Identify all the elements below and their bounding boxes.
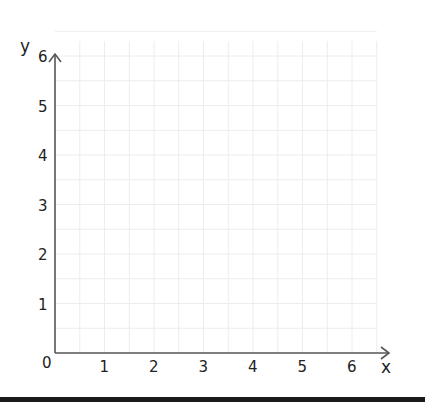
y-tick-label: 2 [38, 246, 48, 264]
y-tick-labels: 123456 [38, 48, 48, 314]
bottom-bar [0, 397, 425, 402]
coordinate-plane: 0123456 123456 x y [0, 0, 425, 397]
x-tick-label: 6 [347, 358, 357, 376]
x-axis-title: x [381, 357, 391, 377]
y-tick-label: 1 [38, 296, 48, 314]
x-tick-label: 0 [42, 354, 52, 372]
y-tick-label: 3 [38, 197, 48, 215]
y-tick-label: 4 [38, 147, 48, 165]
x-tick-label: 4 [248, 358, 258, 376]
x-tick-labels: 0123456 [42, 354, 357, 376]
x-tick-label: 5 [298, 358, 308, 376]
y-tick-label: 6 [38, 48, 48, 66]
x-tick-label: 2 [149, 358, 159, 376]
x-tick-label: 1 [100, 358, 110, 376]
grid-lines [55, 31, 377, 353]
x-tick-label: 3 [199, 358, 209, 376]
y-axis-title: y [20, 36, 30, 56]
y-tick-label: 5 [38, 98, 48, 116]
